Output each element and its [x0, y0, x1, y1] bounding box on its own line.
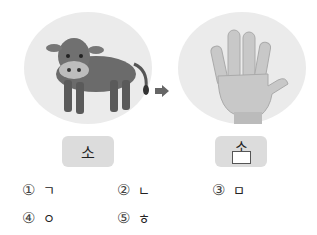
word-box-hand: 소 — [215, 136, 267, 167]
right-arrow-icon — [155, 82, 169, 101]
blank-answer-box — [232, 151, 251, 164]
cow-icon — [24, 12, 152, 124]
word-box-cow: 소 — [62, 136, 114, 167]
hand-image — [178, 12, 306, 124]
option-1[interactable]: ① ㄱ — [22, 180, 55, 199]
cow-image — [24, 12, 152, 124]
option-5[interactable]: ⑤ ㅎ — [117, 208, 150, 227]
word-cow: 소 — [81, 141, 95, 162]
option-4[interactable]: ④ ㅇ — [22, 208, 55, 227]
hand-icon — [178, 12, 306, 124]
option-2[interactable]: ② ㄴ — [117, 180, 150, 199]
option-3[interactable]: ③ ㅁ — [212, 180, 245, 199]
